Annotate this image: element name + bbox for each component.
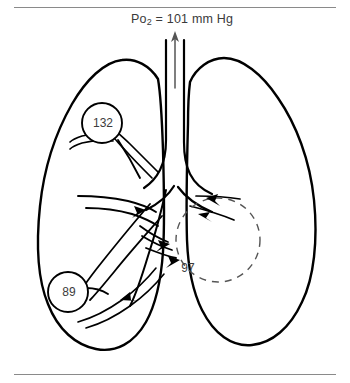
po2-header-label: Po2 = 101 mm Hg: [131, 13, 233, 27]
lower-left-vessel-tail-b: [86, 274, 164, 328]
left-vessel-fan-b: [86, 208, 158, 226]
trachea-left-wall: [144, 40, 166, 188]
right-region-value: 97: [177, 262, 199, 274]
lower-left-alveolus-value: 89: [54, 286, 84, 298]
lung-diagram-svg: [0, 0, 350, 383]
upper-left-bronchus-wall-a: [116, 131, 158, 172]
inspiratory-airflow-arrow: [171, 31, 179, 88]
upper-left-alveolus-stalk: [118, 140, 140, 178]
lung-po2-figure: Po2 = 101 mm Hg 132 89 97: [0, 0, 350, 383]
po2-prefix: Po: [131, 12, 147, 26]
upper-left-alveolus-value: 132: [86, 117, 120, 129]
lower-left-vessel-wall-a: [84, 204, 150, 286]
right-vessel-lower: [190, 206, 234, 220]
right-lung-outline: [187, 58, 316, 345]
po2-suffix: = 101 mm Hg: [152, 12, 233, 26]
left-main-bronchus: [146, 186, 174, 210]
flow-arrowhead-right-lower: [198, 212, 212, 222]
